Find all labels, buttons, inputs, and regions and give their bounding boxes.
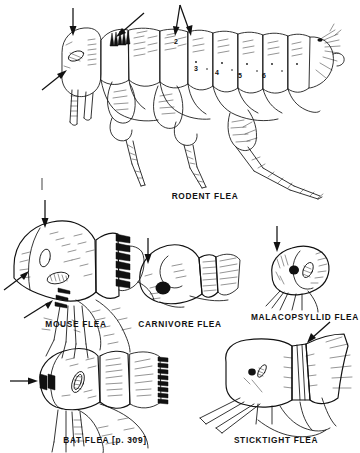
caption-bat-flea: BAT FLEA [p. 309] (63, 435, 146, 445)
malacopsyllid-eye (289, 266, 299, 275)
segment-label-3: 3 (194, 65, 198, 72)
segment-label-4: 4 (215, 69, 219, 76)
rodent-pygidium-spot (317, 38, 322, 42)
caption-carnivore-flea: CARNIVORE FLEA (138, 319, 222, 329)
flea-identification-plate: 2 3 4 5 6 RODENT FLEA (0, 0, 360, 453)
sticktight-eye (248, 369, 256, 376)
caption-mouse-flea: MOUSE FLEA (45, 319, 106, 329)
caption-malacopsyllid-flea: MALACOPSYLLID FLEA (251, 312, 359, 322)
segment-label-6: 6 (262, 72, 266, 79)
caption-rodent-flea: RODENT FLEA (172, 191, 239, 201)
segment-label-2: 2 (174, 38, 178, 45)
carnivore-eye (156, 282, 171, 295)
segment-label-5: 5 (238, 72, 242, 79)
caption-sticktight-flea: STICKTIGHT FLEA (234, 435, 318, 445)
